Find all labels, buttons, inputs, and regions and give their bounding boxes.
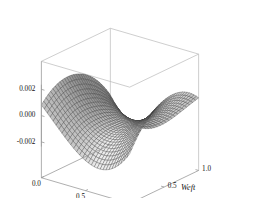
z-tick-label--0.002: -0.002 [17,138,36,146]
x-tick-label-0.0: 0.0 [32,180,41,188]
z-tick-label-0.000: 0.000 [19,111,36,119]
z-tick-label-0.002: 0.002 [19,85,36,93]
x-tick-label-0.5: 0.5 [76,193,85,198]
y-tick-label-0.5: 0.5 [168,182,177,190]
y-tick-label-1.0: 1.0 [202,165,211,173]
surface-plot-figure: 0.00.51.0Warp0.00.51.0Weft0.0020.000-0.0… [0,0,258,198]
surface-plot-canvas: 0.00.51.0Warp0.00.51.0Weft0.0020.000-0.0… [0,0,258,198]
surface-mesh [41,74,198,170]
y-axis-title: Weft [181,183,196,192]
